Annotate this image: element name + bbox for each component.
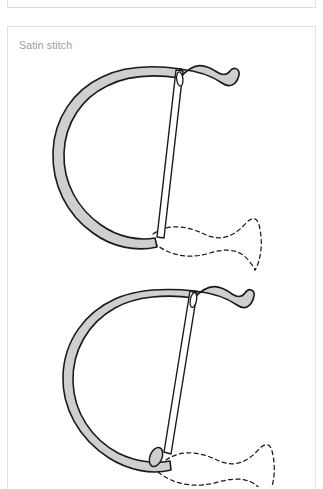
illustration-container xyxy=(8,57,315,487)
satin-stitch-card: Satin stitch xyxy=(7,26,316,489)
previous-card-edge xyxy=(7,0,316,8)
satin-stitch-diagram xyxy=(8,57,315,487)
page-title: Satin stitch xyxy=(19,38,72,52)
thread-loop-step-2 xyxy=(63,287,254,472)
fabric-ribbon-step-2 xyxy=(158,445,274,487)
needle-step-1 xyxy=(157,70,184,238)
diagram-step-1 xyxy=(53,66,261,270)
diagram-step-2 xyxy=(63,287,274,487)
thread-loop-step-1 xyxy=(53,66,239,249)
fabric-ribbon-step-1 xyxy=(153,219,261,270)
page-root: Satin stitch xyxy=(0,0,323,489)
needle-step-2 xyxy=(164,291,198,454)
